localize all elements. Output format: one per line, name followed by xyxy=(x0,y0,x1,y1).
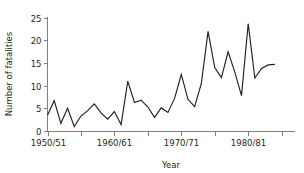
y-tick-label: 5 xyxy=(36,104,41,114)
x-tick-label: 1950/51 xyxy=(31,138,66,148)
x-tick-label: 1980/81 xyxy=(231,138,266,148)
x-tick-label: 1970/71 xyxy=(164,138,199,148)
chart-canvas: 0510152025 1950/511960/611970/711980/81 … xyxy=(0,0,304,173)
y-tick-label: 20 xyxy=(31,36,42,46)
y-tick-label: 15 xyxy=(31,59,42,69)
fatalities-data-line xyxy=(48,24,275,127)
fatalities-line-chart: 0510152025 1950/511960/611970/711980/81 … xyxy=(0,0,304,173)
x-axis-ticks xyxy=(49,132,283,136)
x-axis-tick-labels: 1950/511960/611970/711980/81 xyxy=(31,138,266,148)
x-axis-title: Year xyxy=(161,160,181,170)
y-tick-label: 10 xyxy=(31,82,42,92)
y-tick-label: 0 xyxy=(36,127,41,137)
x-tick-label: 1960/61 xyxy=(97,138,132,148)
y-axis-tick-labels: 0510152025 xyxy=(31,14,42,137)
y-axis-title: Number of fatalities xyxy=(4,31,14,116)
y-axis-ticks xyxy=(44,19,48,132)
y-tick-label: 25 xyxy=(31,14,42,24)
